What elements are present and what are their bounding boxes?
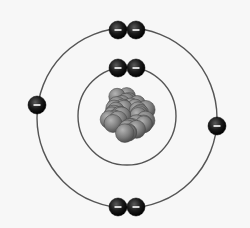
electron [127, 59, 145, 77]
electron [28, 96, 46, 114]
atom-svg [0, 0, 250, 228]
minus-sign-icon [133, 206, 140, 208]
electron [127, 198, 145, 216]
electron [109, 59, 127, 77]
minus-sign-icon [115, 29, 122, 31]
nucleon [116, 124, 135, 143]
electron [127, 21, 145, 39]
nucleus [100, 88, 155, 143]
minus-sign-icon [115, 206, 122, 208]
minus-sign-icon [133, 67, 140, 69]
bohr-atom-diagram [0, 0, 250, 228]
electron [109, 21, 127, 39]
electron [208, 117, 226, 135]
minus-sign-icon [214, 125, 221, 127]
minus-sign-icon [133, 29, 140, 31]
minus-sign-icon [34, 104, 41, 106]
electron [109, 198, 127, 216]
minus-sign-icon [115, 67, 122, 69]
